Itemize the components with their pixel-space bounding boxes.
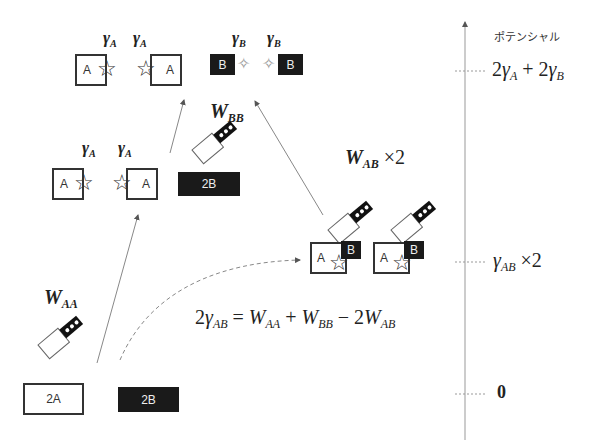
gamma-a-label-3: γA	[82, 138, 96, 159]
star-icon: ☆	[97, 56, 117, 82]
sparkle-icon: ✧	[237, 54, 250, 73]
star-icon: ☆	[112, 170, 132, 196]
gamma-a-label-1: γA	[103, 28, 117, 49]
gamma-a-label-4: γA	[118, 138, 132, 159]
level-zero-label: 0	[497, 382, 506, 403]
work-aa-label: WAA	[44, 286, 78, 312]
knife-icon-bottom	[38, 314, 86, 359]
knife-icon-right-1	[328, 199, 376, 244]
star-icon: ☆	[74, 170, 94, 196]
equation: 2γAB = WAA + WBB − 2WAB	[195, 306, 395, 332]
axis-title: ポテンシャル	[494, 28, 560, 44]
gamma-b-label-2: γB	[267, 28, 281, 49]
block-b-top-1: B	[210, 54, 235, 75]
work-bb-label: WBB	[210, 100, 244, 126]
block-b-top-2: B	[278, 54, 303, 75]
level-mid-label: γAB ×2	[493, 249, 542, 275]
gamma-b-label-1: γB	[232, 28, 246, 49]
work-ab-label: WAB ×2	[345, 146, 405, 172]
star-icon: ☆	[329, 250, 349, 276]
star-icon: ☆	[136, 56, 156, 82]
knife-icon-right-2	[391, 199, 439, 244]
block-2a-bottom: 2A	[23, 383, 84, 415]
sparkle-icon: ✧	[262, 54, 275, 73]
level-top-label: 2γA + 2γB	[492, 58, 564, 84]
block-2b-bottom: 2B	[118, 387, 179, 412]
gamma-a-label-2: γA	[133, 28, 147, 49]
star-icon: ☆	[392, 250, 412, 276]
block-2b-mid: 2B	[178, 172, 240, 196]
